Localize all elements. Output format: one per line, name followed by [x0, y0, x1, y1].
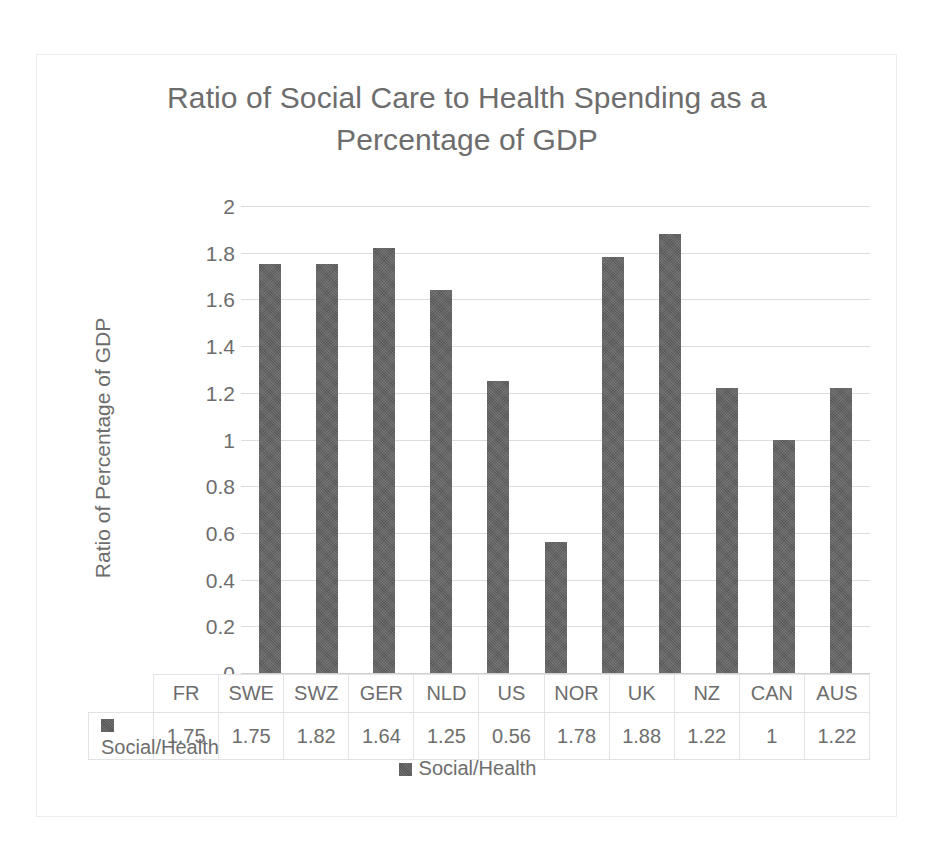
y-axis-tick-label: 1 [157, 429, 235, 450]
series-color-swatch-icon [101, 719, 114, 732]
bar-slot-uk [641, 206, 698, 673]
bar-slot-swz [355, 206, 412, 673]
chart-frame: Ratio of Social Care to Health Spending … [36, 54, 897, 817]
bar-slot-nz [699, 206, 756, 673]
table-row-label-social-health: Social/Health [89, 713, 154, 760]
legend-label-social-health: Social/Health [419, 757, 537, 779]
table-value-cell-us: 0.56 [479, 713, 544, 760]
y-axis-tick-label: 0.8 [157, 476, 235, 497]
legend-swatch-icon [399, 763, 412, 776]
table-value-cell-can: 1 [739, 713, 804, 760]
table-row-values: Social/Health 1.751.751.821.641.250.561.… [89, 713, 870, 760]
y-axis-tick-label: 1.4 [157, 336, 235, 357]
table-value-cell-ger: 1.64 [349, 713, 414, 760]
bar-nld[interactable] [487, 381, 509, 673]
bar-us[interactable] [545, 542, 567, 673]
bar-can[interactable] [773, 440, 795, 674]
table-value-cell-nor: 1.78 [544, 713, 609, 760]
table-value-cell-swz: 1.82 [284, 713, 349, 760]
bar-aus[interactable] [830, 388, 852, 673]
data-table: FRSWESWZGERNLDUSNORUKNZCANAUS Social/Hea… [88, 674, 870, 760]
table-header-cell-nor: NOR [544, 675, 609, 713]
table-header-cell-nld: NLD [414, 675, 479, 713]
chart-title-line-1: Ratio of Social Care to Health Spending … [97, 77, 837, 119]
table-row-header: FRSWESWZGERNLDUSNORUKNZCANAUS [89, 675, 870, 713]
bar-swz[interactable] [373, 248, 395, 673]
table-corner-cell [89, 675, 154, 713]
y-axis-tick-label: 1.8 [157, 242, 235, 263]
table-header-cell-swe: SWE [219, 675, 284, 713]
chart-legend: Social/Health [37, 757, 898, 780]
bar-slot-nor [584, 206, 641, 673]
bar-nor[interactable] [602, 257, 624, 673]
bar-swe[interactable] [316, 264, 338, 673]
table-value-cell-swe: 1.75 [219, 713, 284, 760]
bar-slot-nld [470, 206, 527, 673]
table-header-cell-aus: AUS [804, 675, 869, 713]
table-header-cell-ger: GER [349, 675, 414, 713]
table-value-cell-uk: 1.88 [609, 713, 674, 760]
bar-fr[interactable] [259, 264, 281, 673]
bar-slot-swe [298, 206, 355, 673]
table-value-cell-aus: 1.22 [804, 713, 869, 760]
bar-slot-aus [813, 206, 870, 673]
table-header-cell-swz: SWZ [284, 675, 349, 713]
chart-title-line-2: Percentage of GDP [97, 119, 837, 161]
bar-slot-ger [413, 206, 470, 673]
table-value-cell-nz: 1.22 [674, 713, 739, 760]
table-header-cell-fr: FR [154, 675, 219, 713]
bar-ger[interactable] [430, 290, 452, 673]
y-axis-tick-label: 2 [157, 196, 235, 217]
table-header-cell-can: CAN [739, 675, 804, 713]
bar-slot-fr [241, 206, 298, 673]
table-header-cell-us: US [479, 675, 544, 713]
table-header-cell-uk: UK [609, 675, 674, 713]
y-axis-tick-label: 0.4 [157, 569, 235, 590]
y-axis-tick-label: 0.2 [157, 616, 235, 637]
bar-slot-us [527, 206, 584, 673]
y-axis-tick-labels: 21.81.61.41.210.80.60.40.20 [157, 206, 235, 673]
y-axis-tick-label: 1.2 [157, 382, 235, 403]
table-header-cell-nz: NZ [674, 675, 739, 713]
chart-title: Ratio of Social Care to Health Spending … [97, 77, 837, 161]
bar-uk[interactable] [659, 234, 681, 673]
y-axis-title: Ratio of Percentage of GDP [91, 238, 115, 658]
bar-slot-can [756, 206, 813, 673]
table-value-cell-nld: 1.25 [414, 713, 479, 760]
bar-nz[interactable] [716, 388, 738, 673]
bar-series-social-health [241, 206, 870, 673]
y-axis-tick-label: 0.6 [157, 522, 235, 543]
y-axis-tick-label: 1.6 [157, 289, 235, 310]
